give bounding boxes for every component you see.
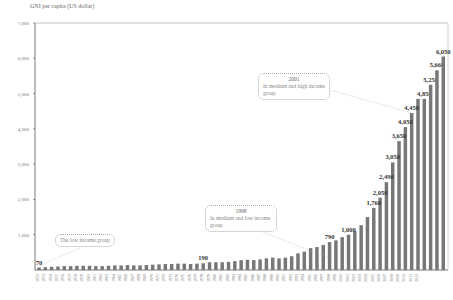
x-tick-label: 1990 [275, 274, 280, 282]
bar [164, 264, 167, 270]
bar [63, 266, 66, 270]
y-tick-label: 5,000 [18, 92, 30, 98]
bar [277, 258, 280, 270]
x-tick-label: 1967 [130, 274, 135, 282]
bar [429, 85, 432, 270]
x-tick-label: 1961 [92, 274, 97, 282]
x-tick-label: 1972 [161, 274, 166, 282]
bar [397, 141, 400, 270]
bar [353, 231, 356, 270]
y-tick-label: 2,000 [18, 197, 30, 203]
bar [214, 262, 217, 270]
bar [113, 265, 116, 270]
bar [347, 235, 350, 270]
bar [56, 266, 59, 270]
x-tick-label: 1989 [269, 274, 274, 282]
x-tick-label: 1995 [307, 274, 312, 282]
bar [239, 260, 242, 270]
bar [75, 266, 78, 270]
annotation-text: In medium and high income group [263, 83, 325, 97]
data-label: 190 [198, 254, 208, 261]
annotation-text: In medium and low income group [210, 215, 272, 229]
bar [176, 264, 179, 270]
bar [100, 266, 103, 270]
x-tick-label: 1959 [79, 274, 84, 282]
bar [271, 258, 274, 270]
bar [366, 217, 369, 270]
bar [126, 265, 129, 270]
bar [233, 261, 236, 270]
x-tick-label: 1977 [193, 274, 198, 282]
x-tick-label: 2004 [363, 274, 368, 282]
y-tick-label: 4,000 [18, 127, 30, 133]
bar [265, 258, 268, 270]
bar [44, 267, 47, 270]
x-tick-label: 1963 [104, 274, 109, 282]
x-tick-label: 1956 [60, 274, 65, 282]
bar [132, 265, 135, 270]
x-tick-label: 1976 [187, 274, 192, 282]
bar [372, 208, 375, 270]
annotation-2001: 2001 In medium and high income group [258, 73, 330, 100]
x-tick-label: 2012 [414, 274, 419, 282]
x-tick-label: 1970 [149, 274, 154, 282]
x-tick-label: 2000 [338, 274, 343, 282]
bar [69, 266, 72, 270]
x-tick-label: 1999 [332, 274, 337, 282]
x-tick-label: 1985 [243, 274, 248, 282]
x-tick-label: 1960 [86, 274, 91, 282]
data-label: 6,050 [436, 48, 451, 55]
data-label: 3,050 [385, 153, 400, 160]
x-tick-label: 1996 [313, 274, 318, 282]
data-label: 1,000 [341, 226, 356, 233]
x-tick-label: 2005 [370, 274, 375, 282]
bar [416, 99, 419, 270]
bar [189, 264, 192, 270]
bar [284, 258, 287, 270]
x-tick-label: 1983 [231, 274, 236, 282]
bar [220, 262, 223, 270]
bar [183, 264, 186, 270]
x-tick-label: 2001 [345, 274, 350, 282]
bar-chart: 1,0002,0003,0004,0005,0006,0007,00019521… [0, 0, 453, 300]
bar [340, 237, 343, 270]
x-tick-label: 2003 [357, 274, 362, 282]
data-label: 790 [325, 233, 335, 240]
bar [252, 260, 255, 270]
bar [442, 57, 445, 270]
data-label: 4,450 [404, 104, 419, 111]
x-tick-label: 2006 [376, 274, 381, 282]
bar [334, 240, 337, 270]
x-tick-label: 1962 [98, 274, 103, 282]
x-tick-label: 1971 [155, 274, 160, 282]
x-tick-label: 1958 [73, 274, 78, 282]
annotation-text: The low income group [60, 237, 110, 243]
x-tick-label: 1982 [225, 274, 230, 282]
bar [404, 127, 407, 270]
bar [246, 260, 249, 270]
x-tick-label: 2007 [382, 274, 387, 282]
annotation-low-income: The low income group [55, 234, 115, 247]
x-tick-label: 1994 [300, 274, 305, 282]
bar [322, 245, 325, 270]
data-label: 4,050 [398, 118, 413, 125]
bar [315, 247, 318, 270]
x-tick-label: 2008 [389, 274, 394, 282]
x-tick-label: 1973 [168, 274, 173, 282]
y-tick-label: 1,000 [18, 233, 30, 239]
bar [227, 262, 230, 270]
x-tick-label: 1984 [237, 274, 242, 282]
data-label: 2,050 [373, 189, 388, 196]
x-tick-label: 1993 [294, 274, 299, 282]
bar [170, 264, 173, 270]
x-tick-label: 2011 [408, 274, 413, 282]
bar [195, 264, 198, 270]
bar [258, 259, 261, 270]
x-tick-label: 2009 [395, 274, 400, 282]
bar [145, 265, 148, 270]
x-tick-label: 1975 [180, 274, 185, 282]
bar [157, 264, 160, 270]
y-tick-label: 6,000 [18, 56, 30, 62]
annotation-1998: 1998 In medium and low income group [205, 205, 277, 232]
y-tick-label: 7,000 [18, 21, 30, 27]
